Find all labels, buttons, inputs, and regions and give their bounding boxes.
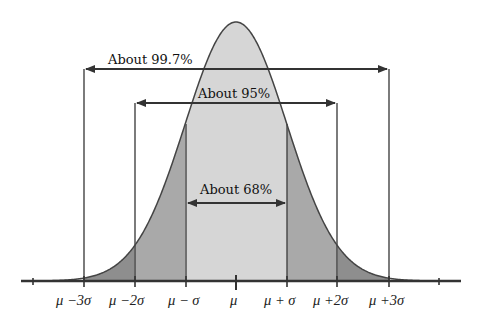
axis-label-mean: μ <box>229 292 237 308</box>
band-two-to-three-sigma-right <box>338 246 389 281</box>
axis-label-minus-2-sigma: μ −2σ <box>108 292 145 308</box>
axis-label-plus-1-sigma: μ + σ <box>263 292 296 308</box>
axis-label-minus-3-sigma: μ −3σ <box>55 292 92 308</box>
label-68-percent: About 68% <box>199 182 272 197</box>
band-two-to-three-sigma-left <box>84 246 135 281</box>
axis-label-plus-3-sigma: μ +3σ <box>368 292 405 308</box>
axis-label-plus-2-sigma: μ +2σ <box>312 292 349 308</box>
label-99-7-percent: About 99.7% <box>107 52 193 67</box>
axis-label-minus-1-sigma: μ − σ <box>167 292 200 308</box>
label-95-percent: About 95% <box>197 86 270 101</box>
band-center-one-sigma <box>185 22 287 281</box>
axis-labels: μ −3σ μ −2σ μ − σ μ μ + σ μ +2σ μ +3σ <box>55 292 405 308</box>
normal-distribution-diagram: About 99.7% About 95% About 68% μ −3σ μ … <box>0 0 478 334</box>
